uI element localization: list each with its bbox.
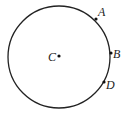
point-label-d: D [105,78,115,92]
point-label-b: B [113,47,121,61]
point-b: B [109,47,121,61]
circle-diagram: C A B D [0,0,124,115]
point-label-a: A [97,5,106,19]
point-a: A [94,5,106,21]
point-label-c: C [48,50,57,64]
point-c: C [48,50,61,64]
center-point-dot [57,54,60,57]
